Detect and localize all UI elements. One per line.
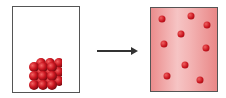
gas-particle [197, 77, 204, 84]
arrow-line [97, 50, 133, 52]
gas-particle [164, 73, 171, 80]
gas-particle [178, 31, 185, 38]
gas-particle [188, 13, 195, 20]
gas-particle [204, 22, 211, 29]
packed-particles-cube [28, 58, 62, 92]
gas-particle [182, 62, 189, 69]
gas-particle [159, 16, 166, 23]
arrow-head-icon [131, 47, 138, 55]
gas-particle [161, 41, 168, 48]
gas-particle [203, 45, 210, 52]
